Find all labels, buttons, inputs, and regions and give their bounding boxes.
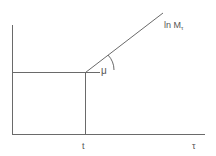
x-tick-label-t: t — [82, 141, 85, 151]
diagram-canvas: μ ln Mτ t τ — [0, 0, 216, 156]
curve-label-main: ln M — [164, 20, 181, 30]
slope-line — [86, 13, 164, 73]
curve-label: ln Mτ — [164, 20, 184, 31]
angle-arc — [108, 55, 114, 70]
curve-label-subscript: τ — [181, 25, 184, 31]
x-axis-label: τ — [192, 141, 196, 151]
angle-label: μ — [101, 65, 107, 76]
